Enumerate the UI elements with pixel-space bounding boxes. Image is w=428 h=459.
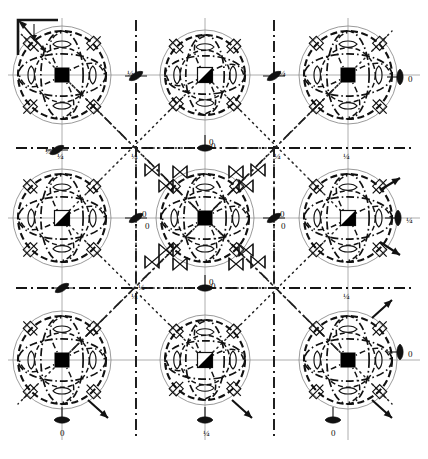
- triad-glyph: [239, 180, 253, 192]
- rosette: [160, 315, 250, 405]
- corner-arrow: [372, 400, 392, 418]
- rosette: [299, 311, 397, 409]
- edge-marker-label: 0: [280, 210, 285, 219]
- edge-marker-label: 0: [331, 429, 336, 438]
- node-label: 0: [211, 142, 216, 151]
- rosette: [13, 311, 111, 409]
- edge-marker-label: ¼: [45, 147, 52, 156]
- triad-glyph: [239, 244, 253, 256]
- edge-marker-label: ¼: [138, 283, 145, 292]
- edge-marker: [387, 69, 403, 85]
- space-group-diagram: 0¼0¼0¼0¼¼0000¼¼¼¼¼00¼0¼0: [0, 0, 428, 459]
- edge-marker-label: 0: [408, 75, 413, 84]
- triad-glyph: [229, 258, 243, 270]
- triad-glyph: [251, 256, 265, 268]
- node-label: 0: [145, 222, 150, 231]
- edge-marker-label: 0: [142, 210, 147, 219]
- node-label: ¼: [343, 152, 350, 161]
- edge-marker: [385, 210, 401, 226]
- edge-marker-label: ¼: [127, 69, 134, 78]
- node-label: ¼: [274, 152, 281, 161]
- edge-marker: [325, 407, 341, 423]
- node-label: ¼: [131, 292, 138, 301]
- edge-marker: [54, 407, 70, 423]
- corner-arrow: [232, 400, 252, 418]
- triad-glyph: [159, 244, 173, 256]
- rosette: [160, 30, 250, 120]
- node-label: ¼: [57, 152, 64, 161]
- triad-glyph: [229, 166, 243, 178]
- rosette: [13, 169, 111, 267]
- diagram-canvas: [0, 0, 428, 459]
- node-label: ¼: [343, 292, 350, 301]
- corner-arrow: [88, 400, 108, 418]
- edge-marker-label: ¼: [279, 69, 286, 78]
- edge-marker-label: ¼: [203, 429, 210, 438]
- edge-marker-label: 0: [60, 429, 65, 438]
- corner-arrow: [372, 300, 392, 318]
- triad-glyph: [145, 256, 159, 268]
- node-label: ¼: [131, 152, 138, 161]
- edge-marker-label: 0: [408, 350, 413, 359]
- rosette: [299, 169, 397, 267]
- edge-marker: [197, 407, 213, 423]
- node-label: 0: [211, 282, 216, 291]
- node-label: 0: [281, 222, 286, 231]
- edge-marker-label: ¼: [406, 216, 413, 225]
- rosette: [299, 26, 397, 124]
- rosette: [13, 26, 111, 124]
- triad-glyph: [159, 180, 173, 192]
